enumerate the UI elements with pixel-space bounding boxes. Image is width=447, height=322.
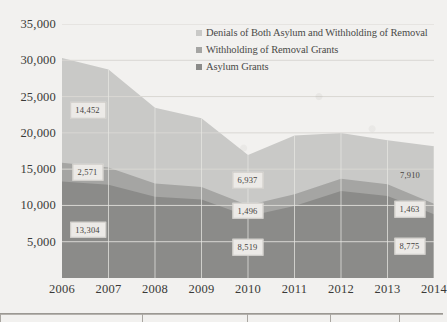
data-point-label: 2,571 (72, 164, 103, 181)
x-axis-tick-label: 2010 (235, 282, 261, 297)
y-axis-tick-label: 35,000 (20, 17, 56, 32)
y-axis-tick-label: 30,000 (20, 53, 56, 68)
legend-item-label: Asylum Grants (206, 61, 269, 72)
x-axis-tick-label: 2008 (142, 282, 168, 297)
x-axis: 200620072008200920102011201220132014 (62, 282, 434, 304)
legend-swatch-icon (196, 64, 202, 70)
x-axis-tick-label: 2006 (49, 282, 75, 297)
legend-item-label: Denials of Both Asylum and Withholding o… (206, 27, 428, 38)
footer-tick (330, 314, 331, 322)
legend-swatch-icon (196, 30, 202, 36)
x-axis-tick-label: 2009 (189, 282, 215, 297)
y-axis-tick-label: 15,000 (20, 162, 56, 177)
data-point-label: 14,452 (70, 102, 106, 119)
y-axis-tick-label: 25,000 (20, 89, 56, 104)
legend-item-label: Withholding of Removal Grants (206, 44, 338, 55)
y-axis-tick-label: 10,000 (20, 198, 56, 213)
footer-tick-strip (0, 314, 443, 322)
legend-item[interactable]: Asylum Grants (196, 61, 428, 72)
data-point-label: 8,519 (232, 239, 263, 256)
footer-tick (399, 314, 400, 322)
chart-legend: Denials of Both Asylum and Withholding o… (196, 27, 428, 72)
legend-swatch-icon (196, 47, 202, 53)
y-axis: 5,00010,00015,00020,00025,00030,00035,00… (0, 24, 60, 278)
data-point-label: 1,463 (394, 201, 425, 218)
x-axis-tick-label: 2011 (282, 282, 307, 297)
data-point-label: 13,304 (70, 221, 106, 238)
x-axis-tick-label: 2014 (421, 282, 447, 297)
footer-tick (247, 314, 248, 322)
footer-tick (142, 314, 143, 322)
data-point-label: 6,937 (232, 172, 263, 189)
x-axis-tick-label: 2012 (328, 282, 354, 297)
x-axis-tick-label: 2007 (96, 282, 122, 297)
data-point-label: 8,775 (394, 238, 425, 255)
legend-item[interactable]: Denials of Both Asylum and Withholding o… (196, 27, 428, 38)
x-axis-tick-label: 2013 (375, 282, 401, 297)
y-axis-tick-label: 5,000 (27, 234, 56, 249)
legend-item[interactable]: Withholding of Removal Grants (196, 44, 428, 55)
data-point-label: 1,496 (232, 202, 263, 219)
data-point-label: 7,910 (400, 171, 420, 180)
footer-tick (0, 314, 1, 322)
y-axis-tick-label: 20,000 (20, 125, 56, 140)
